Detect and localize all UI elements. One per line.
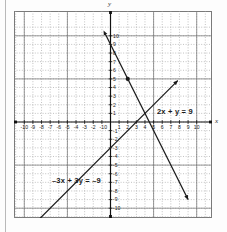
- x-tick-label: 1: [118, 124, 121, 130]
- equation-label-line-2: –3x + 3y = –9: [52, 176, 101, 185]
- y-tick-label: -8: [113, 188, 118, 194]
- y-tick-label: 4: [113, 84, 116, 90]
- y-tick-label: -6: [113, 171, 118, 177]
- x-tick-label: -3: [82, 124, 87, 130]
- line-1: [105, 34, 188, 200]
- x-tick-label: -2: [91, 124, 96, 130]
- x-tick-label: 6: [161, 124, 164, 130]
- page-margin-rule: [5, 0, 6, 232]
- equation-label-line-1: 2x + y = 9: [157, 107, 193, 116]
- y-axis-label: y: [108, 0, 111, 8]
- x-axis-label: x: [215, 117, 218, 125]
- y-tick-label: -3: [113, 145, 118, 151]
- y-tick-label: 1: [113, 110, 116, 116]
- y-tick-label: 7: [113, 59, 116, 65]
- y-tick-label: 10: [113, 33, 119, 39]
- y-tick-label: 9: [113, 41, 116, 47]
- x-tick-label: 8: [178, 124, 181, 130]
- x-tick-label: 7: [169, 124, 172, 130]
- y-tick-label: 5: [113, 76, 116, 82]
- x-tick-label: -6: [57, 124, 62, 130]
- y-tick-label: 3: [113, 93, 116, 99]
- x-tick-label: -9: [31, 124, 36, 130]
- y-tick-label: -7: [113, 179, 118, 185]
- y-tick-label: -4: [113, 153, 118, 159]
- y-tick-label: -9: [113, 196, 118, 202]
- x-tick-label: 10: [194, 124, 200, 130]
- x-tick-label: -4: [74, 124, 79, 130]
- x-tick-label: 4: [144, 124, 147, 130]
- y-tick-label: 2: [113, 102, 116, 108]
- page-background: -10-9-8-7-6-5-4-3-2-1012345678910-10-9-8…: [0, 0, 227, 232]
- y-tick-label: -10: [113, 205, 121, 211]
- x-tick-label: 3: [135, 124, 138, 130]
- y-tick-label: 6: [113, 67, 116, 73]
- x-tick-label: -5: [65, 124, 70, 130]
- x-tick-label: 0: [104, 124, 107, 130]
- y-tick-label: -1: [113, 128, 118, 134]
- x-tick-label: -7: [48, 124, 53, 130]
- intersection-point: [126, 77, 130, 81]
- line-2: [21, 81, 178, 218]
- x-tick-label: -8: [39, 124, 44, 130]
- intersection-points: [126, 77, 130, 81]
- graph-figure: -10-9-8-7-6-5-4-3-2-1012345678910-10-9-8…: [14, 11, 212, 218]
- y-tick-label: -5: [113, 162, 118, 168]
- x-tick-label: 9: [187, 124, 190, 130]
- x-tick-label: -10: [21, 124, 29, 130]
